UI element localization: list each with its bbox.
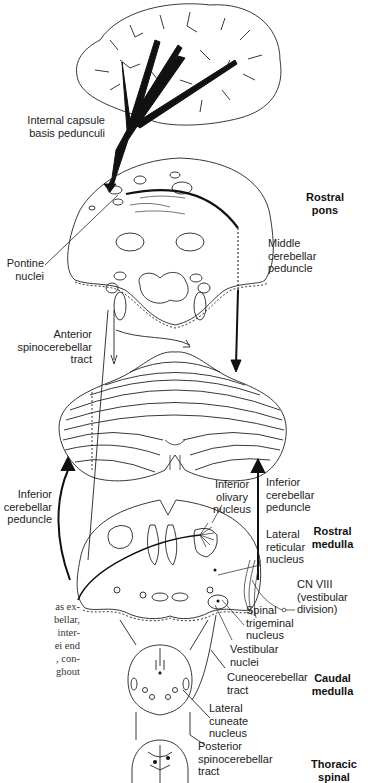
lateral-cuneate-pointer <box>183 690 210 718</box>
cropped-body-text: as ex- bellar, inter- ei end , con- ghou… <box>0 600 80 678</box>
cuneocerebellar-fibers <box>192 615 216 700</box>
level-rostral-pons: Rostral pons <box>290 191 360 216</box>
label-inferior-cerebellar-peduncle-left: Inferior cerebellar peduncle <box>0 488 52 526</box>
label-vestibular-nuclei: Vestibular nuclei <box>230 643 290 668</box>
label-cn-viii: CN VIII (vestibular division) <box>297 578 367 616</box>
label-lateral-cuneate-nucleus: Lateral cuneate nucleus <box>209 702 269 740</box>
middle-peduncle-fibers <box>126 190 241 372</box>
olivocerebellar-fibers <box>78 535 200 600</box>
pontine-nuclei-pointer <box>45 195 118 265</box>
cerebellum-drawing <box>59 352 286 481</box>
label-middle-cerebellar-peduncle: Middle cerebellar peduncle <box>268 237 348 275</box>
label-cuneocerebellar-tract: Cuneocerebellar tract <box>227 671 317 696</box>
label-lateral-reticular-nucleus: Lateral reticular nucleus <box>266 528 326 566</box>
label-inferior-cerebellar-peduncle-right: Inferior cerebellar peduncle <box>266 476 326 514</box>
label-spinal-trigeminal-nucleus: Spinal trigeminal nucleus <box>246 604 306 642</box>
label-posterior-spinocerebellar-tract: Posterior spinocerebellar tract <box>198 740 288 778</box>
label-internal-capsule: Internal capsule basis pedunculi <box>10 114 105 139</box>
rostral-medulla-section <box>77 500 261 621</box>
cuneocerebellar-pointer <box>211 650 225 668</box>
label-anterior-spinocerebellar-tract: Anterior spinocerebellar tract <box>10 328 92 366</box>
label-pontine-nuclei: Pontine nuclei <box>0 257 44 282</box>
thoracic-spinal-section <box>132 712 205 783</box>
level-thoracic-spinal: Thoracic spinal <box>300 758 368 783</box>
vestibular-pointer <box>215 605 232 640</box>
label-inferior-olivary-nucleus: Inferior olivary nucleus <box>206 478 258 516</box>
pons-section <box>68 158 274 328</box>
